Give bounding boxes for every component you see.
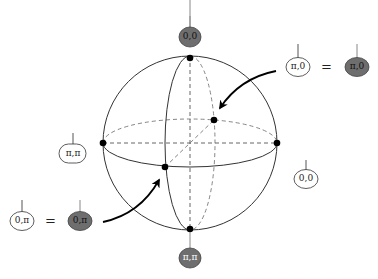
node-top-label: 0,0 [180,31,200,41]
node-upper-right-open-label: π,0 [286,61,310,71]
point-back [211,117,218,124]
point-front [162,164,169,171]
arrow-lower [103,180,159,222]
point-left [100,140,107,147]
sphere [100,55,281,233]
node-lower-left-filled-label: 0,π [68,215,92,225]
node-upper-right-filled-label: π,0 [345,61,369,71]
point-top [187,55,194,62]
node-left-label: π,π [60,148,86,158]
equals-lower: = [45,213,56,228]
point-right [274,140,281,147]
node-right-label: 0,0 [294,173,318,183]
depth-axis [165,120,214,167]
node-bottom [179,232,201,268]
node-lower-left-open-label: 0,π [10,215,34,225]
equals-upper: = [321,59,332,74]
node-bottom-label: π,π [178,252,202,262]
bloch-sphere-diagram: 0,0 π,π π,π 0,0 π,0 = π,0 0,π = 0,π [0,0,378,279]
point-bottom [187,226,194,233]
arrow-upper [220,71,276,108]
